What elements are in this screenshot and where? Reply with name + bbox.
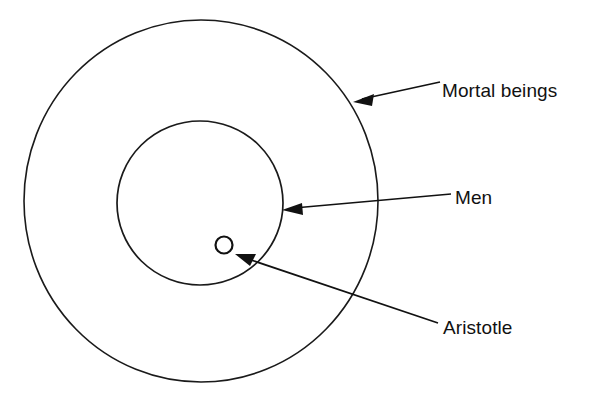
leader-line-aristotle [248,259,438,323]
set-shape-mortal-beings [24,20,378,382]
set-shape-men [117,121,283,285]
set-shape-aristotle [216,237,233,254]
leader-line-men [294,194,451,208]
label-aristotle: Aristotle [443,317,513,338]
arrowhead-aristotle [235,254,256,266]
callout-men [282,194,451,215]
euler-diagram-svg: Mortal beings Men Aristotle [0,0,605,395]
arrowhead-men [282,203,303,215]
euler-diagram-canvas: Mortal beings Men Aristotle [0,0,605,395]
label-men: Men [455,187,492,208]
leader-line-mortal-beings [362,82,440,99]
label-mortal-beings: Mortal beings [442,80,557,101]
callout-mortal-beings [353,82,440,106]
callout-aristotle [235,254,438,323]
arrowhead-mortal-beings [353,94,374,106]
